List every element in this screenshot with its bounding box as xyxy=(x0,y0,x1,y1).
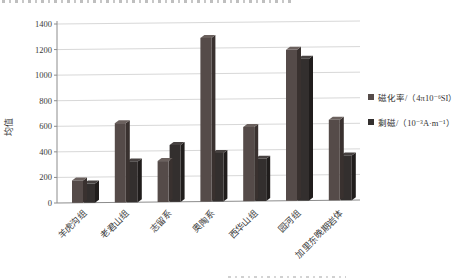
bar-0-5 xyxy=(286,50,297,201)
gridline xyxy=(57,21,360,24)
y-axis-title: 均值 xyxy=(3,118,14,136)
y-tick-label: 0 xyxy=(48,198,52,208)
legend-label-susceptibility: 磁化率/（4π10⁻⁶SI） xyxy=(378,91,457,103)
bar-0-6 xyxy=(329,120,340,201)
y-tick-label: 600 xyxy=(39,121,52,131)
y-tick-label: 1000 xyxy=(35,70,52,80)
y-tick-label: 400 xyxy=(39,147,52,157)
legend-swatch-square-icon xyxy=(368,119,374,125)
x-category-label-1: 老君山组 xyxy=(98,208,131,241)
bar-side-1-4 xyxy=(266,156,270,201)
bar-0-3 xyxy=(200,38,211,202)
x-category-label-2: 志留系 xyxy=(147,208,174,235)
bar-side-0-2 xyxy=(169,158,173,202)
y-tick-label: 1400 xyxy=(35,19,52,29)
bar-side-1-3 xyxy=(223,150,227,202)
bar-side-1-0 xyxy=(95,181,99,203)
bar-side-1-6 xyxy=(352,152,356,200)
bar-side-0-6 xyxy=(340,117,344,201)
chart-legend: 磁化率/（4π10⁻⁶SI） 剩磁/（10⁻³A·m⁻¹） xyxy=(368,91,457,141)
bar-side-0-1 xyxy=(126,120,130,202)
x-category-label-5: 园河组 xyxy=(276,208,303,235)
y-tick-label: 1200 xyxy=(35,45,52,55)
y-tick-label: 200 xyxy=(39,172,52,182)
x-category-label-0: 羊虎沟组 xyxy=(55,208,88,241)
bar-0-2 xyxy=(158,161,169,202)
bar-side-0-0 xyxy=(83,177,87,202)
bar-side-1-2 xyxy=(181,142,185,202)
bar-0-4 xyxy=(243,127,254,201)
legend-swatch-square-icon xyxy=(368,94,374,100)
bar-side-0-5 xyxy=(297,47,301,201)
cropped-text-bottom xyxy=(228,276,346,278)
bar-side-1-1 xyxy=(138,158,142,202)
bar-side-0-4 xyxy=(254,124,258,201)
legend-item-remanence: 剩磁/（10⁻³A·m⁻¹） xyxy=(368,116,457,128)
x-category-label-3: 奥陶系 xyxy=(190,208,217,235)
bar-side-0-3 xyxy=(211,35,215,202)
x-category-label-4: 西华山组 xyxy=(226,208,259,241)
legend-label-remanence: 剩磁/（10⁻³A·m⁻¹） xyxy=(378,116,455,128)
bar-side-1-5 xyxy=(309,56,313,201)
bar-0-0 xyxy=(72,180,83,202)
y-tick-label: 800 xyxy=(39,96,52,106)
bar-0-1 xyxy=(115,123,126,202)
figure: 0200400600800100012001400均值羊虎沟组老君山组志留系奥陶… xyxy=(0,0,475,279)
legend-item-susceptibility: 磁化率/（4π10⁻⁶SI） xyxy=(368,91,457,103)
